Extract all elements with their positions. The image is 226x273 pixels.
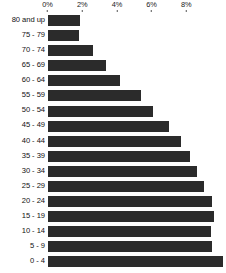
- bar: [48, 90, 142, 101]
- x-axis-tick: 6%: [146, 0, 156, 12]
- x-axis-tick-mark: [151, 10, 152, 13]
- category-label: 5 - 9: [1, 240, 45, 252]
- bar-row: 75 - 79: [0, 29, 226, 44]
- bar-row: 5 - 9: [0, 240, 226, 255]
- x-axis-tick-label: 2%: [77, 0, 87, 9]
- bar-row: 55 - 59: [0, 89, 226, 104]
- category-label: 30 - 34: [1, 165, 45, 177]
- bar: [48, 166, 197, 177]
- category-label: 40 - 44: [1, 135, 45, 147]
- x-axis: 0%2%4%6%8%: [0, 0, 226, 14]
- category-label: 15 - 19: [1, 210, 45, 222]
- x-axis-tick-mark: [82, 10, 83, 13]
- population-pyramid-bar-chart: 0%2%4%6%8% 80 and up75 - 7970 - 7465 - 6…: [0, 0, 226, 273]
- category-label: 35 - 39: [1, 150, 45, 162]
- category-label: 50 - 54: [1, 104, 45, 116]
- x-axis-tick: 8%: [181, 0, 191, 12]
- bar: [48, 181, 204, 192]
- bar-row: 35 - 39: [0, 150, 226, 165]
- bar-row: 45 - 49: [0, 119, 226, 134]
- category-label: 75 - 79: [1, 29, 45, 41]
- bar: [48, 15, 81, 26]
- bar-row: 65 - 69: [0, 59, 226, 74]
- category-label: 45 - 49: [1, 119, 45, 131]
- bar: [48, 196, 213, 207]
- bar-row: 25 - 29: [0, 180, 226, 195]
- bar-row: 70 - 74: [0, 44, 226, 59]
- bar: [48, 241, 213, 252]
- category-label: 55 - 59: [1, 89, 45, 101]
- category-label: 80 and up: [1, 14, 45, 26]
- category-label: 65 - 69: [1, 59, 45, 71]
- bar-row: 15 - 19: [0, 210, 226, 225]
- bar: [48, 121, 169, 132]
- bar-row: 30 - 34: [0, 165, 226, 180]
- bar: [48, 106, 154, 117]
- bar: [48, 151, 190, 162]
- bar: [48, 75, 121, 86]
- bar-row: 40 - 44: [0, 135, 226, 150]
- category-label: 60 - 64: [1, 74, 45, 86]
- bar: [48, 45, 93, 56]
- x-axis-tick: 0%: [42, 0, 52, 12]
- bar: [48, 226, 211, 237]
- x-axis-tick: 4%: [112, 0, 122, 12]
- x-axis-tick-label: 4%: [112, 0, 122, 9]
- x-axis-tick-label: 0%: [42, 0, 52, 9]
- category-label: 0 - 4: [1, 255, 45, 267]
- category-label: 70 - 74: [1, 44, 45, 56]
- bar-row: 10 - 14: [0, 225, 226, 240]
- category-label: 10 - 14: [1, 225, 45, 237]
- x-axis-tick: 2%: [77, 0, 87, 12]
- plot-area: 80 and up75 - 7970 - 7465 - 6960 - 6455 …: [0, 14, 226, 273]
- x-axis-tick-label: 8%: [181, 0, 191, 9]
- bar: [48, 30, 79, 41]
- x-axis-tick-label: 6%: [146, 0, 156, 9]
- bar: [48, 60, 107, 71]
- x-axis-tick-mark: [186, 10, 187, 13]
- bar-row: 20 - 24: [0, 195, 226, 210]
- bar: [48, 256, 223, 267]
- category-label: 20 - 24: [1, 195, 45, 207]
- x-axis-tick-mark: [116, 10, 117, 13]
- bar-row: 0 - 4: [0, 255, 226, 270]
- bar-row: 60 - 64: [0, 74, 226, 89]
- bar-row: 80 and up: [0, 14, 226, 29]
- x-axis-tick-mark: [47, 10, 48, 13]
- category-label: 25 - 29: [1, 180, 45, 192]
- bar: [48, 211, 215, 222]
- bar: [48, 136, 182, 147]
- bar-row: 50 - 54: [0, 104, 226, 119]
